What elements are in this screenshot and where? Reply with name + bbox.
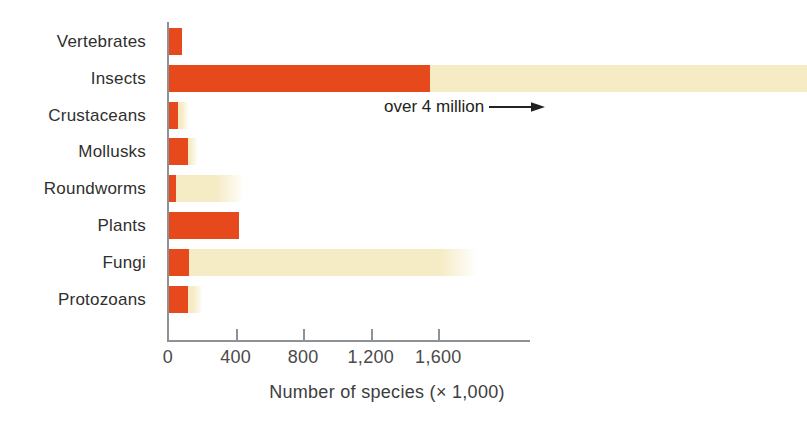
x-axis-tick-label-400: 400 <box>220 347 251 368</box>
bar-red-crustaceans <box>168 102 178 129</box>
category-label-vertebrates: Vertebrates <box>0 28 146 55</box>
bar-cream-insects <box>430 65 807 92</box>
bar-red-protozoans <box>168 286 188 313</box>
bar-red-mollusks <box>168 138 188 165</box>
x-axis-tick-800 <box>303 329 305 340</box>
x-axis-tick-label-1600: 1,600 <box>415 347 462 368</box>
category-label-roundworms: Roundworms <box>0 175 146 202</box>
annotation-text: over 4 million <box>384 97 484 117</box>
bar-cream-mollusks <box>188 138 197 165</box>
category-label-mollusks: Mollusks <box>0 138 146 165</box>
category-label-plants: Plants <box>0 212 146 239</box>
x-axis-tick-label-0: 0 <box>163 347 173 368</box>
species-diversity-bar-chart: VertebratesInsectsCrustaceansMollusksRou… <box>0 0 807 431</box>
bar-red-insects <box>168 65 430 92</box>
over-4-million-annotation: over 4 million <box>384 96 545 118</box>
category-label-fungi: Fungi <box>0 249 146 276</box>
x-axis-line <box>167 340 530 342</box>
right-arrow-icon <box>489 101 545 113</box>
x-axis-tick-label-1200: 1,200 <box>348 347 395 368</box>
x-axis-title: Number of species (× 1,000) <box>269 382 505 403</box>
x-axis-tick-label-800: 800 <box>288 347 319 368</box>
bar-red-plants <box>168 212 239 239</box>
bar-red-roundworms <box>168 175 177 202</box>
x-axis-tick-1200 <box>371 329 373 340</box>
x-axis-tick-1600 <box>438 329 440 340</box>
bar-cream-crustaceans <box>178 102 189 129</box>
category-label-insects: Insects <box>0 65 146 92</box>
category-label-protozoans: Protozoans <box>0 286 146 313</box>
bar-red-vertebrates <box>168 28 182 55</box>
category-label-crustaceans: Crustaceans <box>0 102 146 129</box>
y-axis-line <box>167 22 169 340</box>
bar-cream-protozoans <box>188 286 203 313</box>
x-axis-tick-400 <box>236 329 238 340</box>
bar-cream-fungi <box>189 249 477 276</box>
bar-red-fungi <box>168 249 189 276</box>
bar-cream-roundworms <box>176 175 244 202</box>
